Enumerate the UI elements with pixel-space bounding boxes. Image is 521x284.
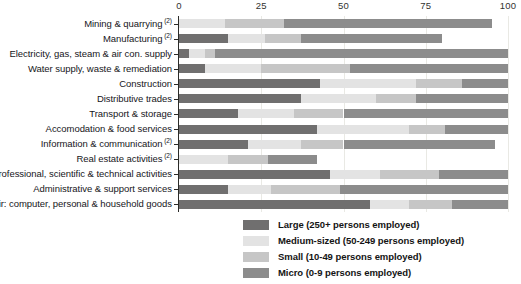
x-axis-tick-25: 25 xyxy=(256,0,267,11)
bar-segment xyxy=(261,64,350,73)
bar-segment xyxy=(228,185,271,194)
bar-segment xyxy=(344,140,495,149)
bar-segment xyxy=(179,64,205,73)
bar-row xyxy=(179,31,508,46)
bar-row xyxy=(179,106,508,121)
category-label: Manufacturing (2) xyxy=(103,34,172,44)
category-footnote-marker: (2) xyxy=(162,137,172,144)
legend-swatch xyxy=(243,268,269,278)
category-label: Repair: computer, personal & household g… xyxy=(0,199,172,209)
stacked-bar xyxy=(179,19,508,28)
bar-segment xyxy=(416,94,508,103)
bar-segment xyxy=(179,79,320,88)
stacked-bar xyxy=(179,155,508,164)
category-label: Transport & storage xyxy=(89,109,172,119)
stacked-bar xyxy=(179,109,508,118)
stacked-bar xyxy=(179,125,508,134)
bar-segment xyxy=(225,19,284,28)
legend-swatch xyxy=(243,220,269,230)
category-label: Accomodation & food services xyxy=(46,124,172,134)
bar-segment xyxy=(248,140,301,149)
bar-segment xyxy=(228,34,264,43)
stacked-bar xyxy=(179,140,508,149)
category-label: Information & communication (2) xyxy=(41,139,172,149)
bar-segment xyxy=(376,94,415,103)
bar-row xyxy=(179,76,508,91)
bar-row xyxy=(179,61,508,76)
bar-row xyxy=(179,122,508,137)
x-axis-tick-50: 50 xyxy=(338,0,349,11)
stacked-bar xyxy=(179,34,508,43)
bar-segment xyxy=(370,200,409,209)
bar-segment xyxy=(409,125,445,134)
category-label: Mining & quarrying (2) xyxy=(84,19,172,29)
bar-segment xyxy=(330,170,379,179)
bar-segment xyxy=(179,109,238,118)
legend-swatch xyxy=(243,252,269,262)
category-axis-labels: Mining & quarrying (2)Manufacturing (2)E… xyxy=(0,16,176,212)
bar-segment xyxy=(344,109,509,118)
x-axis-tick-0: 0 xyxy=(176,0,181,11)
category-label: Water supply, waste & remediation xyxy=(28,64,172,74)
bar-segment xyxy=(179,140,248,149)
legend-item: Large (250+ persons employed) xyxy=(243,217,513,232)
category-label: Construction xyxy=(119,79,172,89)
bar-row xyxy=(179,182,508,197)
bar-row xyxy=(179,137,508,152)
stacked-bar xyxy=(179,170,508,179)
legend-label: Large (250+ persons employed) xyxy=(278,219,419,230)
bar-segment xyxy=(179,34,228,43)
legend-item: Small (10-49 persons employed) xyxy=(243,249,513,264)
bar-row xyxy=(179,167,508,182)
category-label: Distributive trades xyxy=(97,94,172,104)
bar-row xyxy=(179,152,508,167)
bar-segment xyxy=(301,140,344,149)
legend-item: Micro (0-9 persons employed) xyxy=(243,265,513,280)
bar-segment xyxy=(294,109,343,118)
legend-label: Small (10-49 persons employed) xyxy=(278,251,422,262)
bar-segment xyxy=(179,200,370,209)
category-label: Real estate activities (2) xyxy=(76,154,172,164)
bar-segment xyxy=(215,49,508,58)
stacked-bar-chart: 0255075100 Mining & quarrying (2)Manufac… xyxy=(0,0,521,284)
legend-swatch xyxy=(243,236,269,246)
bar-segment xyxy=(445,125,508,134)
stacked-bar xyxy=(179,94,508,103)
legend-item: Medium-sized (50-249 persons employed) xyxy=(243,233,513,248)
bar-segment xyxy=(179,19,225,28)
category-label: Professional, scientific & technical act… xyxy=(0,169,172,179)
stacked-bar xyxy=(179,185,508,194)
category-label: Electricity, gas, steam & air con. suppl… xyxy=(9,49,172,59)
legend-label: Medium-sized (50-249 persons employed) xyxy=(278,235,464,246)
category-label: Administrative & support services xyxy=(33,184,172,194)
bar-row xyxy=(179,91,508,106)
bar-segment xyxy=(301,94,377,103)
bar-segment xyxy=(301,34,442,43)
plot-area xyxy=(179,16,508,212)
bar-segment xyxy=(268,155,317,164)
bar-segment xyxy=(228,155,267,164)
bar-segment xyxy=(409,200,452,209)
bar-segment xyxy=(340,185,508,194)
bar-segment xyxy=(189,49,205,58)
bar-segment xyxy=(205,49,215,58)
gridline-100 xyxy=(508,16,509,212)
bar-rows xyxy=(179,16,508,212)
bar-segment xyxy=(238,109,294,118)
category-footnote-marker: (2) xyxy=(162,152,172,159)
bar-row xyxy=(179,46,508,61)
bar-segment xyxy=(416,79,462,88)
legend-label: Micro (0-9 persons employed) xyxy=(278,267,411,278)
stacked-bar xyxy=(179,64,508,73)
bar-segment xyxy=(205,64,261,73)
bar-segment xyxy=(284,19,491,28)
bar-segment xyxy=(179,185,228,194)
bar-segment xyxy=(179,49,189,58)
category-footnote-marker: (2) xyxy=(162,16,172,23)
bar-segment xyxy=(320,79,415,88)
bar-segment xyxy=(350,64,508,73)
bar-segment xyxy=(439,170,508,179)
stacked-bar xyxy=(179,49,508,58)
stacked-bar xyxy=(179,200,508,209)
bar-row xyxy=(179,16,508,31)
